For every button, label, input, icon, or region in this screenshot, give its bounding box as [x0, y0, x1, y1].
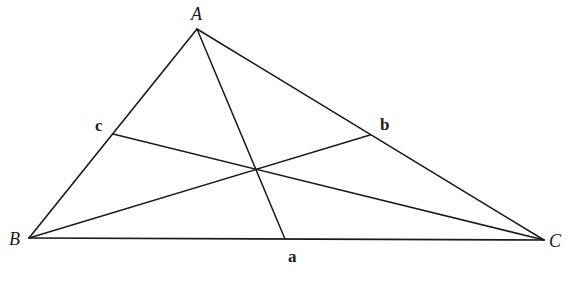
median-A-a	[197, 29, 285, 239]
vertex-label-C: C	[549, 231, 562, 251]
midpoint-label-a: a	[288, 247, 297, 266]
midpoint-label-b: b	[380, 115, 389, 134]
median-B-b	[29, 135, 370, 238]
median-C-c	[113, 134, 544, 240]
vertex-label-A: A	[190, 4, 203, 24]
vertex-label-B: B	[9, 229, 20, 249]
midpoint-label-c: c	[95, 116, 103, 135]
triangle-medians-diagram: A B C a b c	[0, 0, 569, 287]
side-BC	[29, 238, 544, 240]
